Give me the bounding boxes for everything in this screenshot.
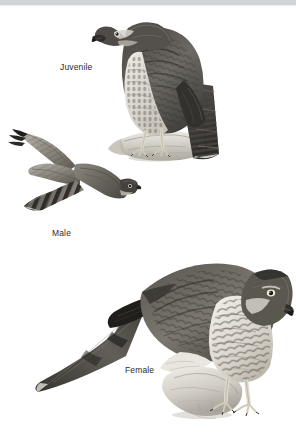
top-band-fade <box>0 5 296 7</box>
male-body <box>74 164 141 199</box>
male-hawk-illustration <box>2 122 142 226</box>
caption-male: Male <box>52 228 71 238</box>
female-head <box>241 269 294 326</box>
juvenile-head <box>92 22 172 50</box>
illustration-plate: Juvenile Male Female <box>0 0 296 437</box>
caption-female: Female <box>125 365 154 375</box>
caption-juvenile: Juvenile <box>60 62 92 72</box>
male-tail <box>24 180 84 211</box>
female-hawk-illustration <box>30 252 296 437</box>
